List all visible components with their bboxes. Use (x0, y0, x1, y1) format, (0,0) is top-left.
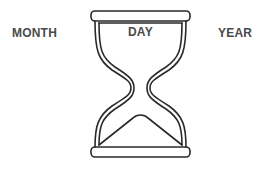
day-label: DAY (128, 25, 153, 39)
year-label: YEAR (218, 26, 252, 40)
month-label: MONTH (12, 26, 57, 40)
